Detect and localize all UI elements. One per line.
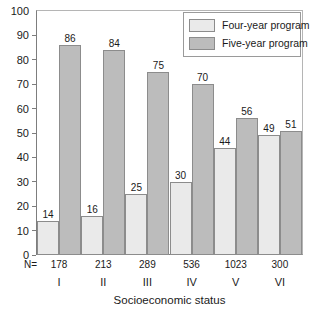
x-axis-title: Socioeconomic status [36,294,303,306]
bar-group-III: 2575 [125,11,169,255]
y-tick-50: 50 [0,127,36,139]
bar-value-label: 86 [65,33,76,44]
category-label-III: III [125,276,169,288]
category-label-row: IIIIIIIVVVI [37,276,302,290]
category-label-II: II [81,276,125,288]
bar-chart-figure: 0102030405060708090100 14861684257530704… [0,0,315,311]
sample-size-V: 1023 [214,259,258,270]
y-tick-60: 60 [0,103,36,115]
bar-value-label: 84 [109,38,120,49]
y-tick-40: 40 [0,151,36,163]
legend-swatch-five-year-icon [189,37,215,50]
y-tick-100: 100 [0,5,36,17]
y-tick-80: 80 [0,54,36,66]
bar-five-year-VI: 51 [280,131,302,255]
bar-five-year-II: 84 [103,50,125,255]
legend-item-four-year: Four-year program [189,17,296,33]
bar-five-year-IV: 70 [192,84,214,255]
sample-size-III: 289 [125,259,169,270]
y-axis: 0102030405060708090100 [0,10,36,256]
bar-five-year-III: 75 [147,72,169,255]
bar-value-label: 70 [197,72,208,83]
bar-four-year-II: 16 [81,216,103,255]
category-label-IV: IV [170,276,214,288]
sample-size-IV: 536 [170,259,214,270]
sample-size-row: 1782132895361023300 [37,259,302,271]
bar-value-label: 75 [153,60,164,71]
legend-item-five-year: Five-year program [189,35,296,51]
bar-value-label: 56 [241,106,252,117]
category-label-I: I [37,276,81,288]
bar-value-label: 30 [175,170,186,181]
category-label-VI: VI [258,276,302,288]
bar-value-label: 14 [43,209,54,220]
sample-size-I: 178 [37,259,81,270]
chart-legend: Four-year program Five-year program [183,12,301,57]
bar-four-year-IV: 30 [170,182,192,255]
legend-label-four-year: Four-year program [222,19,310,31]
y-tick-90: 90 [0,29,36,41]
bar-four-year-V: 44 [214,148,236,255]
bar-value-label: 25 [131,182,142,193]
bar-five-year-I: 86 [59,45,81,255]
bar-four-year-III: 25 [125,194,147,255]
sample-size-II: 213 [81,259,125,270]
y-tick-20: 20 [0,200,36,212]
bar-four-year-I: 14 [37,221,59,255]
y-tick-10: 10 [0,225,36,237]
bar-four-year-VI: 49 [258,135,280,255]
bar-value-label: 44 [219,136,230,147]
sample-size-prefix: N= [5,259,37,270]
legend-swatch-four-year-icon [189,19,215,32]
bar-group-II: 1684 [81,11,125,255]
bar-value-label: 16 [87,204,98,215]
legend-label-five-year: Five-year program [222,37,308,49]
sample-size-VI: 300 [258,259,302,270]
bar-value-label: 51 [285,119,296,130]
y-tick-30: 30 [0,176,36,188]
category-label-V: V [214,276,258,288]
y-tick-70: 70 [0,78,36,90]
clipped-chart-title [0,0,315,5]
bar-group-I: 1486 [37,11,81,255]
bar-value-label: 49 [263,123,274,134]
bar-five-year-V: 56 [236,118,258,255]
